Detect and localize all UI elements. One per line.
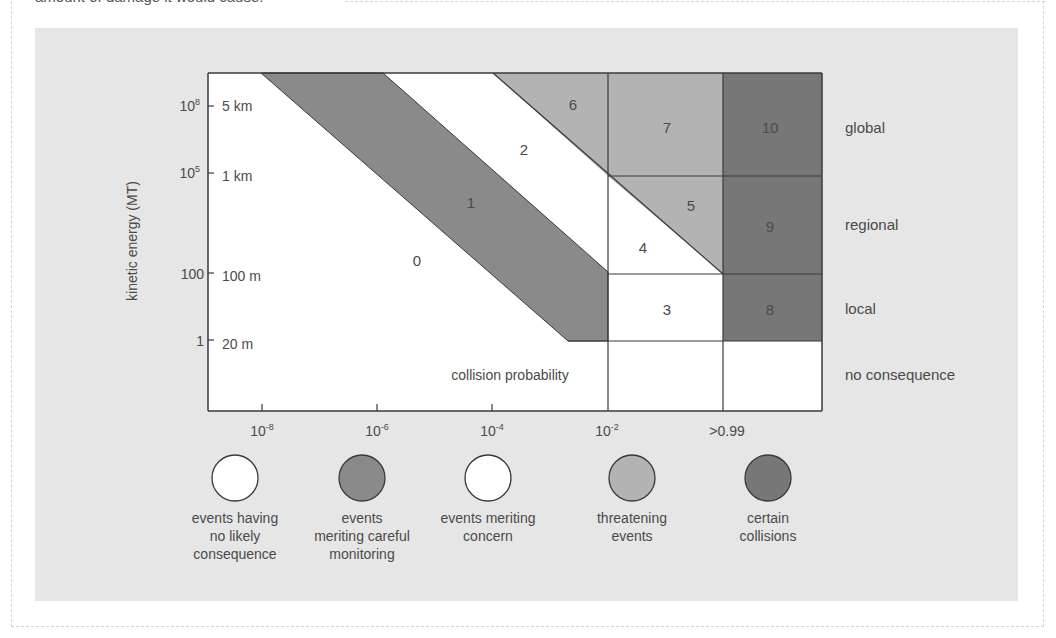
y-tick-energy-3: 1 (196, 333, 204, 349)
zone-label-5: 5 (687, 197, 695, 214)
x-tick-2: 10-4 (480, 422, 504, 439)
legend-swatch-threatening (609, 455, 655, 501)
legend-swatch-concern (465, 455, 511, 501)
legend-swatch-careful-monitoring (339, 455, 385, 501)
x-tick-3: 10-2 (595, 422, 619, 439)
y-tick-energy-2: 100 (181, 266, 205, 282)
zone-label-4: 4 (639, 239, 647, 256)
y-tick-size-1: 1 km (222, 168, 252, 184)
legend-label-certain: certain collisions (703, 509, 833, 545)
zone-label-10: 10 (762, 119, 779, 136)
zone-label-9: 9 (766, 218, 774, 235)
legend-label-careful-monitoring: events meriting careful monitoring (297, 509, 427, 563)
effect-label-global: global (845, 119, 885, 136)
zone-label-6: 6 (569, 96, 577, 113)
effect-label-regional: regional (845, 216, 898, 233)
legend-swatch-no-consequence (212, 455, 258, 501)
zone-label-7: 7 (663, 119, 671, 136)
zone-label-3: 3 (663, 301, 671, 318)
y-axis-label: kinetic energy (MT) (124, 181, 140, 301)
x-tick-0: 10-8 (250, 422, 274, 439)
zone-label-2: 2 (520, 141, 528, 158)
zone-label-1: 1 (467, 194, 475, 211)
y-tick-size-2: 100 m (222, 268, 261, 284)
x-tick-1: 10-6 (365, 422, 389, 439)
legend-swatch-certain (745, 455, 791, 501)
y-tick-size-0: 5 km (222, 98, 252, 114)
effect-label-local: local (845, 300, 876, 317)
legend-label-concern: events meriting concern (423, 509, 553, 545)
y-tick-energy-0: 108 (179, 97, 200, 114)
legend-label-threatening: threatening events (567, 509, 697, 545)
legend-label-no-consequence: events having no likely consequence (170, 509, 300, 563)
x-axis-label: collision probability (451, 367, 569, 383)
effect-label-no-consequence: no consequence (845, 366, 955, 383)
y-tick-energy-1: 105 (179, 164, 200, 181)
zone-label-8: 8 (766, 301, 774, 318)
y-tick-size-3: 20 m (222, 336, 253, 352)
x-tick-4: >0.99 (709, 423, 745, 439)
zone-label-0: 0 (413, 252, 421, 269)
